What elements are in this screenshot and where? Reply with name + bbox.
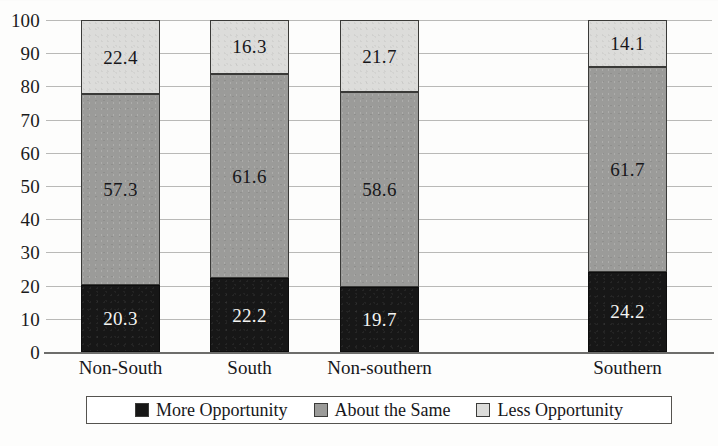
bar-segment-value: 21.7: [362, 47, 396, 66]
legend-item: About the Same: [314, 401, 451, 419]
y-axis-tick-label: 40: [0, 210, 40, 229]
y-axis-tick-label: 100: [0, 11, 40, 30]
bar-south: 22.261.616.3: [210, 20, 289, 352]
plot-area: 1009080706050403020100 20.357.322.422.26…: [0, 0, 718, 446]
bar-segment-same: 57.3: [81, 94, 160, 284]
bar-segment-same: 61.7: [588, 67, 667, 272]
y-axis-tick-label: 60: [0, 144, 40, 163]
y-axis-tick-label: 70: [0, 111, 40, 130]
legend-item: More Opportunity: [135, 401, 287, 419]
bar-segment-more: 24.2: [588, 272, 667, 352]
bar-segment-value: 61.6: [232, 167, 266, 186]
legend-label: About the Same: [335, 401, 451, 419]
bar-segment-value: 20.3: [103, 309, 137, 328]
bar-segment-value: 16.3: [232, 37, 266, 56]
bar-non-south: 20.357.322.4: [81, 20, 160, 352]
x-axis-label-non-southern: Non-southern: [295, 358, 464, 377]
bar-segment-value: 14.1: [610, 34, 644, 53]
legend-swatch-more-icon: [135, 403, 149, 417]
y-axis-tick-label: 90: [0, 44, 40, 63]
bar-non-southern: 19.758.621.7: [340, 20, 419, 352]
bar-segment-less: 22.4: [81, 20, 160, 94]
y-axis-tick-label: 50: [0, 177, 40, 196]
bar-segment-value: 58.6: [362, 180, 396, 199]
y-axis-tick-label: 30: [0, 243, 40, 262]
legend-item: Less Opportunity: [476, 401, 623, 419]
bar-segment-same: 61.6: [210, 74, 289, 279]
bar-segment-value: 57.3: [103, 180, 137, 199]
legend-label: More Opportunity: [156, 401, 287, 419]
bar-segment-more: 22.2: [210, 278, 289, 352]
y-axis-tick-label: 10: [0, 310, 40, 329]
legend-swatch-same-icon: [314, 403, 328, 417]
y-axis-tick-label: 20: [0, 277, 40, 296]
y-axis-tick-label: 0: [0, 343, 40, 362]
bar-segment-value: 19.7: [362, 310, 396, 329]
bar-segment-less: 14.1: [588, 20, 667, 67]
chart-legend: More OpportunityAbout the SameLess Oppor…: [86, 396, 672, 424]
x-axis-label-southern: Southern: [543, 358, 712, 377]
bar-segment-less: 21.7: [340, 20, 419, 92]
bar-segment-value: 22.2: [232, 306, 266, 325]
bar-segment-same: 58.6: [340, 92, 419, 287]
axis-baseline: [44, 352, 714, 354]
bar-segment-value: 22.4: [103, 48, 137, 67]
bar-southern: 24.261.714.1: [588, 20, 667, 352]
bar-segment-value: 61.7: [610, 160, 644, 179]
stacked-bar-chart: 1009080706050403020100 20.357.322.422.26…: [0, 0, 718, 446]
y-axis-tick-label: 80: [0, 77, 40, 96]
bar-segment-more: 19.7: [340, 287, 419, 352]
bar-segment-less: 16.3: [210, 20, 289, 74]
bar-segment-value: 24.2: [610, 302, 644, 321]
bar-segment-more: 20.3: [81, 285, 160, 352]
legend-swatch-less-icon: [476, 403, 490, 417]
legend-label: Less Opportunity: [497, 401, 623, 419]
